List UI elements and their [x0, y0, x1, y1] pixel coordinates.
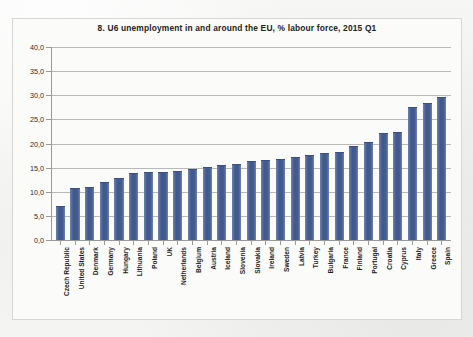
x-label-slot: Slovakia [244, 247, 259, 317]
x-tick-slot [434, 241, 449, 245]
x-tick-slot [82, 241, 97, 245]
x-label-slot: Iceland [214, 247, 229, 317]
bar [85, 187, 94, 240]
y-axis-tick-mark [46, 144, 51, 145]
x-axis-tick-mark [412, 241, 413, 245]
y-axis-tick-label: 20,0 [16, 139, 44, 148]
x-axis-tick-label: Spain [444, 247, 451, 265]
bar-series [51, 47, 451, 240]
x-axis-labels: Czech RepublicUnited StatesDenmarkGerman… [51, 247, 451, 317]
x-tick-slot [141, 241, 156, 245]
bar-slot [332, 47, 347, 240]
bar [423, 103, 432, 240]
x-label-slot: Czech Republic [53, 247, 68, 317]
x-axis-tick-mark [236, 241, 237, 245]
y-axis-tick-label: 40,0 [16, 43, 44, 52]
y-axis-labels: 40,035,030,025,020,015,010,05,00,0 [13, 47, 44, 240]
x-tick-slot [302, 241, 317, 245]
y-axis-tick-label: 30,0 [16, 91, 44, 100]
bar [261, 160, 270, 240]
x-axis-tick-mark [295, 241, 296, 245]
x-axis-tick-mark [192, 241, 193, 245]
x-tick-slot [390, 241, 405, 245]
bar [247, 161, 256, 240]
bar-slot [112, 47, 127, 240]
x-axis-tick-mark [75, 241, 76, 245]
bar-slot [361, 47, 376, 240]
x-tick-slot [97, 241, 112, 245]
x-tick-slot [420, 241, 435, 245]
y-axis-tick-mark [46, 216, 51, 217]
bar [232, 164, 241, 240]
x-tick-slot [346, 241, 361, 245]
bar [276, 159, 285, 240]
x-tick-slot [68, 241, 83, 245]
x-label-slot: Sweden [273, 247, 288, 317]
x-axis-tick-mark [353, 241, 354, 245]
x-label-slot: Bulgaria [317, 247, 332, 317]
bar-slot [214, 47, 229, 240]
bar [188, 169, 197, 240]
y-axis-tick-mark [46, 119, 51, 120]
bar [56, 206, 65, 240]
bar [173, 171, 182, 240]
y-axis-tick-mark [46, 71, 51, 72]
x-label-slot: Ireland [258, 247, 273, 317]
x-axis-tick-mark [104, 241, 105, 245]
chart-frame: 8. U6 unemployment in and around the EU,… [12, 18, 462, 320]
x-axis-tick-mark [177, 241, 178, 245]
bar-slot [302, 47, 317, 240]
x-label-slot: Germany [97, 247, 112, 317]
x-label-slot: Greece [420, 247, 435, 317]
y-axis-tick-label: 15,0 [16, 163, 44, 172]
y-axis-tick-mark [46, 192, 51, 193]
bar-slot [376, 47, 391, 240]
x-axis-tick-mark [89, 241, 90, 245]
bar [144, 172, 153, 240]
y-axis-tick-mark [46, 168, 51, 169]
x-label-slot: Cyprus [390, 247, 405, 317]
bar-slot [346, 47, 361, 240]
x-label-slot: Lithuania [126, 247, 141, 317]
bar-slot [317, 47, 332, 240]
y-axis-tick-label: 0,0 [16, 236, 44, 245]
x-label-slot: Italy [405, 247, 420, 317]
bar-slot [53, 47, 68, 240]
x-tick-slot [405, 241, 420, 245]
bar [217, 165, 226, 240]
x-axis-tick-mark [133, 241, 134, 245]
bar-slot [288, 47, 303, 240]
bar [320, 153, 329, 240]
x-axis-tick-mark [119, 241, 120, 245]
x-label-slot: United States [68, 247, 83, 317]
x-axis-tick-mark [397, 241, 398, 245]
bar-slot [229, 47, 244, 240]
bar [437, 97, 446, 240]
x-label-slot: Croatia [376, 247, 391, 317]
x-axis-tick-mark [368, 241, 369, 245]
x-tick-slot [185, 241, 200, 245]
bar-slot [390, 47, 405, 240]
bar-slot [185, 47, 200, 240]
bar-slot [200, 47, 215, 240]
bar [408, 107, 417, 240]
bar-slot [68, 47, 83, 240]
chart-title: 8. U6 unemployment in and around the EU,… [13, 23, 461, 33]
bar-slot [97, 47, 112, 240]
x-label-slot: Turkey [302, 247, 317, 317]
x-label-slot: UK [156, 247, 171, 317]
x-label-slot: Belgium [185, 247, 200, 317]
x-tick-slot [112, 241, 127, 245]
x-tick-slot [200, 241, 215, 245]
bar-slot [273, 47, 288, 240]
x-axis-tick-mark [309, 241, 310, 245]
y-axis-tick-mark [46, 240, 51, 241]
bar [158, 172, 167, 240]
x-axis-tick-mark [207, 241, 208, 245]
x-tick-slot [229, 241, 244, 245]
bar [393, 132, 402, 240]
bar-slot [141, 47, 156, 240]
y-axis-tick-label: 10,0 [16, 187, 44, 196]
x-tick-slot [126, 241, 141, 245]
x-axis-tick-mark [60, 241, 61, 245]
